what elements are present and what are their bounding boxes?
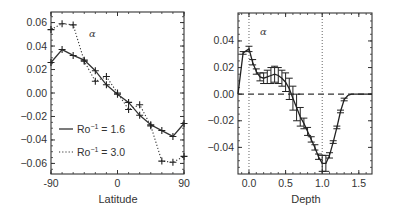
- plus-marker-icon: [136, 101, 143, 108]
- legend-entry-2: Ro−1 = 3.0: [77, 146, 125, 158]
- x-tick-label: 0.0: [242, 177, 257, 189]
- error-bar: [311, 145, 318, 150]
- plus-marker-icon: [92, 78, 99, 85]
- x-tick-label: 90: [178, 177, 190, 189]
- error-bar: [282, 73, 289, 92]
- right-x-axis-label: Depth: [291, 193, 320, 205]
- left-series-group: [48, 20, 188, 166]
- y-tick-label: −0.02: [20, 110, 47, 122]
- plus-marker-icon: [158, 127, 165, 134]
- right-plot-frame: [238, 13, 372, 174]
- plus-marker-icon: [169, 159, 176, 166]
- right-annotation-alpha: α: [260, 26, 267, 37]
- error-bar: [289, 86, 296, 110]
- y-tick-label: 0.04: [214, 34, 235, 46]
- x-tick-label: 0: [115, 177, 121, 189]
- error-bar: [253, 69, 260, 74]
- error-bar: [330, 141, 337, 144]
- y-tick-label: −0.04: [207, 141, 234, 153]
- plus-marker-icon: [59, 20, 66, 27]
- error-bar: [249, 60, 256, 65]
- y-tick-label: 0.06: [27, 16, 48, 28]
- legend: Ro−1 = 1.6 Ro−1 = 3.0: [59, 123, 125, 158]
- figure: 0.060.040.020.00−0.02−0.04−0.06 -90090 α…: [0, 0, 393, 213]
- y-tick-label: 0.02: [27, 63, 48, 75]
- x-tick-label: 1.0: [315, 177, 330, 189]
- y-tick-label: 0.00: [214, 88, 235, 100]
- right-series-group: [238, 46, 372, 171]
- x-tick-label: -90: [43, 177, 58, 189]
- plus-marker-icon: [70, 52, 77, 59]
- left-x-axis-label: Latitude: [98, 193, 137, 205]
- error-bar: [308, 137, 315, 142]
- plus-marker-icon: [70, 21, 77, 28]
- y-tick-label: −0.04: [20, 133, 47, 145]
- error-bar: [315, 154, 322, 159]
- left-x-axis: -90090: [43, 12, 190, 189]
- reference-lines: [238, 13, 372, 174]
- plus-marker-icon: [181, 153, 188, 160]
- error-bar: [337, 110, 344, 113]
- error-bar: [264, 70, 271, 83]
- right-plot: 0.040.020.00−0.02−0.04 0.00.51.01.5 α De…: [207, 13, 372, 205]
- y-tick-label: 0.02: [214, 61, 235, 73]
- y-tick-label: −0.06: [20, 157, 47, 169]
- plus-marker-icon: [103, 73, 110, 80]
- plus-marker-icon: [48, 26, 55, 33]
- depth-profile-line: [238, 49, 372, 163]
- error-bar: [260, 73, 267, 84]
- y-tick-label: 0.00: [27, 87, 48, 99]
- error-bar: [341, 98, 348, 101]
- x-tick-label: 1.5: [352, 177, 367, 189]
- left-annotation-alpha: α: [89, 28, 96, 39]
- legend-entry-1: Ro−1 = 1.6: [77, 123, 125, 135]
- error-bar: [271, 66, 278, 82]
- y-tick-label: 0.04: [27, 40, 48, 52]
- left-plot: 0.060.040.020.00−0.02−0.04−0.06 -90090 α…: [20, 12, 190, 205]
- x-tick-label: 0.5: [278, 177, 293, 189]
- plus-marker-icon: [158, 158, 165, 165]
- y-tick-label: −0.02: [207, 114, 234, 126]
- plus-marker-icon: [125, 106, 132, 113]
- error-bar: [333, 126, 340, 129]
